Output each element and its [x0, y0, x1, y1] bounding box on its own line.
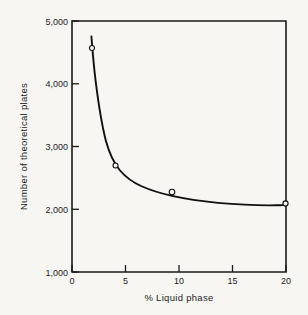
y-tick-label-4000: 4,000 — [45, 79, 68, 89]
plot-frame — [72, 21, 286, 272]
x-tick-label-1: 5 — [123, 276, 128, 286]
figure-container: 0 5 10 15 20 5,000 4,000 3,000 2,000 1,0… — [0, 0, 308, 315]
x-axis-title: % Liquid phase — [144, 292, 213, 303]
x-tick-label-2: 10 — [174, 276, 184, 286]
y-axis-ticks — [72, 21, 79, 272]
x-axis-ticks — [72, 265, 286, 272]
data-point — [283, 201, 288, 206]
y-tick-label-3000: 3,000 — [45, 142, 68, 152]
y-axis-title: Number of theoretical plates — [18, 83, 29, 210]
data-series-curve — [91, 36, 286, 205]
data-point — [90, 46, 95, 51]
y-tick-label-2000: 2,000 — [45, 205, 68, 215]
data-points — [90, 46, 289, 207]
data-point — [169, 189, 175, 195]
data-point — [113, 163, 118, 168]
y-tick-label-5000: 5,000 — [45, 17, 68, 27]
x-tick-label-3: 15 — [227, 276, 237, 286]
x-tick-label-4: 20 — [281, 276, 291, 286]
x-tick-label-0: 0 — [69, 276, 74, 286]
y-tick-label-1000: 1,000 — [45, 268, 68, 278]
chart-plot: 0 5 10 15 20 5,000 4,000 3,000 2,000 1,0… — [0, 0, 308, 315]
